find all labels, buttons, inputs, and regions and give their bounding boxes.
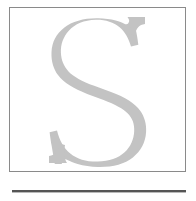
page-canvas: Large light gray serif capital letter S …: [0, 0, 196, 201]
drop-cap-glyph-container: [10, 8, 185, 171]
horizontal-rule-shadow: [12, 192, 186, 193]
letter-s-glyph: [49, 16, 145, 164]
drop-cap-frame: [9, 7, 186, 172]
figure-alt-text: Large light gray serif capital letter S …: [0, 0, 1, 1]
